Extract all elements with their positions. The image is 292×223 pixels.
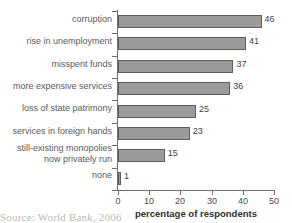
category-label-more-expensive-services: more expensive services bbox=[13, 81, 112, 92]
bar-chart: corruption rise in unemployment misspent… bbox=[0, 0, 292, 223]
bar-none bbox=[118, 172, 121, 185]
x-tick-mark bbox=[212, 190, 213, 195]
bar-value-label: 23 bbox=[193, 125, 203, 138]
x-tick-label: 40 bbox=[231, 196, 255, 206]
x-tick-mark bbox=[118, 190, 119, 195]
x-axis-title: percentage of respondents bbox=[118, 208, 274, 219]
bar-still-existing-monopolies bbox=[118, 149, 165, 162]
bar-more-expensive-services bbox=[118, 82, 230, 95]
bar-row: 41 bbox=[118, 33, 274, 55]
x-tick-label: 50 bbox=[262, 196, 286, 206]
bar-value-label: 41 bbox=[249, 35, 259, 48]
bar-services-in-foreign-hands bbox=[118, 127, 190, 140]
bar-value-label: 15 bbox=[168, 147, 178, 160]
x-tick-label: 30 bbox=[200, 196, 224, 206]
x-tick-mark bbox=[149, 190, 150, 195]
category-label-rise-in-unemployment: rise in unemployment bbox=[26, 36, 112, 47]
bar-row: 25 bbox=[118, 101, 274, 123]
bar-row: 46 bbox=[118, 11, 274, 33]
bar-row: 15 bbox=[118, 145, 274, 167]
category-label-corruption: corruption bbox=[72, 14, 112, 25]
category-label-loss-of-state-patrimony: loss of state patrimony bbox=[22, 103, 112, 114]
x-tick-mark bbox=[180, 190, 181, 195]
source-note: Source: World Bank, 2006 bbox=[0, 211, 122, 223]
bar-row: 37 bbox=[118, 56, 274, 78]
plot-area: 46 41 37 36 25 23 15 1 bbox=[118, 11, 274, 190]
bar-loss-of-state-patrimony bbox=[118, 105, 196, 118]
category-label-none: none bbox=[92, 170, 112, 181]
bar-misspent-funds bbox=[118, 60, 233, 73]
bar-value-label: 1 bbox=[124, 170, 129, 183]
bar-value-label: 37 bbox=[236, 58, 246, 71]
bar-row: 23 bbox=[118, 123, 274, 145]
x-tick-label: 10 bbox=[137, 196, 161, 206]
x-tick-mark bbox=[274, 190, 275, 195]
x-tick-label: 20 bbox=[168, 196, 192, 206]
category-label-services-in-foreign-hands: services in foreign hands bbox=[12, 126, 112, 137]
bar-row: 36 bbox=[118, 78, 274, 100]
bar-value-label: 46 bbox=[265, 13, 275, 26]
category-label-still-existing-monopolies: still-existing monopolies now privately … bbox=[17, 143, 112, 164]
bar-value-label: 25 bbox=[199, 103, 209, 116]
bar-row: 1 bbox=[118, 168, 274, 190]
x-tick-label: 0 bbox=[106, 196, 130, 206]
category-label-misspent-funds: misspent funds bbox=[51, 59, 112, 70]
bar-value-label: 36 bbox=[233, 80, 243, 93]
x-axis-line bbox=[117, 190, 275, 191]
bar-corruption bbox=[118, 15, 262, 28]
bar-rise-in-unemployment bbox=[118, 37, 246, 50]
x-tick-mark bbox=[243, 190, 244, 195]
